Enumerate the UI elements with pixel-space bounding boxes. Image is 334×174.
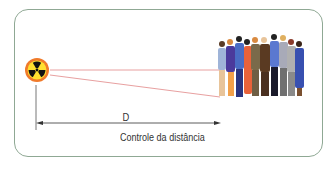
sight-line-bottom [50,75,220,97]
diagram-canvas [0,0,334,174]
distance-label: D [123,111,130,123]
diagram-caption: Controle da distância [120,131,205,143]
people-group-icon [218,34,304,97]
radiation-icon [25,58,49,82]
